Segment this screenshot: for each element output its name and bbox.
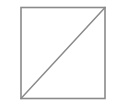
square-with-diagonal-svg [0,0,117,107]
geometry-figure: Square with diagonal [0,0,117,107]
